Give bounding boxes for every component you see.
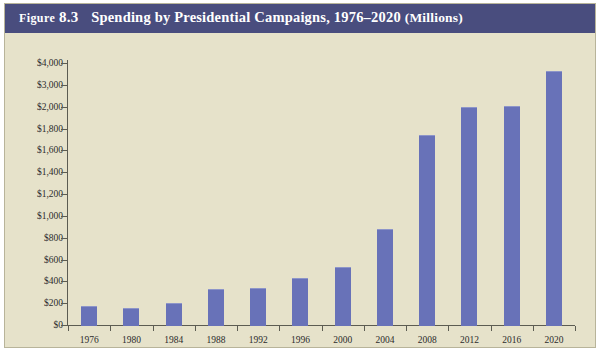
- y-axis-tick-label: $1,800: [5, 124, 67, 134]
- y-axis-tick-mark: [61, 63, 67, 64]
- y-axis-tick-label: $2,000: [5, 102, 67, 112]
- y-axis-tick-mark: [61, 85, 67, 86]
- bar-1980: [123, 308, 139, 326]
- x-axis-tick-label: 1988: [206, 335, 225, 345]
- x-axis-tick-label: 2016: [502, 335, 521, 345]
- x-axis-tick-label: 1984: [164, 335, 183, 345]
- figure-title: Figure 8.3 Spending by Presidential Camp…: [19, 9, 463, 26]
- y-axis-tick-mark: [61, 172, 67, 173]
- y-axis-tick-mark: [61, 194, 67, 195]
- figure-label-prefix: Figure: [19, 11, 55, 25]
- bar-1976: [81, 306, 97, 326]
- y-axis-line: [67, 60, 68, 326]
- bar-1996: [292, 278, 308, 326]
- bar-2008: [419, 135, 435, 326]
- bar-1988: [208, 289, 224, 326]
- y-axis-tick-mark: [61, 260, 67, 261]
- figure-number: 8.3: [59, 9, 78, 25]
- x-axis-tick-mark: [322, 326, 323, 331]
- bar-1984: [166, 303, 182, 326]
- y-axis-tick-label: $200: [5, 298, 67, 308]
- x-axis-tick-label: 1980: [122, 335, 141, 345]
- figure-title-banner: Figure 8.3 Spending by Presidential Camp…: [5, 4, 596, 33]
- figure-title-main: Spending by Presidential Campaigns, 1976…: [91, 9, 401, 25]
- y-axis-tick-label: $0: [5, 320, 67, 330]
- y-axis-tick-mark: [61, 325, 67, 326]
- x-axis-tick-mark: [364, 326, 365, 331]
- bar-2004: [377, 229, 393, 326]
- x-axis-tick-label: 2012: [460, 335, 479, 345]
- x-axis-tick-label: 2004: [375, 335, 394, 345]
- bar-2000: [335, 267, 351, 326]
- x-axis-tick-label: 2000: [333, 335, 352, 345]
- bar-2016: [504, 106, 520, 326]
- x-axis-tick-mark: [448, 326, 449, 331]
- bar-1992: [250, 288, 266, 326]
- x-axis-tick-label: 1992: [249, 335, 268, 345]
- x-axis-tick-label: 1996: [291, 335, 310, 345]
- x-axis-tick-mark: [153, 326, 154, 331]
- y-axis-tick-label: $1,200: [5, 189, 67, 199]
- bar-2012: [461, 107, 477, 326]
- chart-plot-area: $4,000$3,000$2,000$1,800$1,600$1,400$1,2…: [5, 33, 596, 348]
- y-axis-tick-mark: [61, 216, 67, 217]
- figure-title-units: (Millions): [405, 10, 463, 25]
- figure-card: Figure 8.3 Spending by Presidential Camp…: [4, 3, 596, 348]
- x-axis-tick-mark: [406, 326, 407, 331]
- x-axis-tick-mark: [195, 326, 196, 331]
- x-axis-tick-mark: [279, 326, 280, 331]
- x-axis-tick-mark: [68, 326, 69, 331]
- y-axis-tick-label: $800: [5, 233, 67, 243]
- y-axis-tick-mark: [61, 129, 67, 130]
- y-axis-tick-label: $4,000: [5, 58, 67, 68]
- y-axis-tick-label: $1,400: [5, 167, 67, 177]
- x-axis-tick-label: 1976: [80, 335, 99, 345]
- y-axis-labels: $4,000$3,000$2,000$1,800$1,600$1,400$1,2…: [5, 33, 67, 348]
- x-axis-tick-mark: [491, 326, 492, 331]
- bar-2020: [546, 71, 562, 326]
- x-axis-tick-label: 2020: [544, 335, 563, 345]
- x-axis-tick-mark: [237, 326, 238, 331]
- y-axis-tick-mark: [61, 281, 67, 282]
- y-axis-tick-mark: [61, 150, 67, 151]
- y-axis-tick-label: $1,600: [5, 145, 67, 155]
- x-axis-tick-mark: [533, 326, 534, 331]
- x-axis-tick-mark: [575, 326, 576, 331]
- x-axis-tick-mark: [110, 326, 111, 331]
- y-axis-tick-label: $600: [5, 255, 67, 265]
- y-axis-tick-mark: [61, 238, 67, 239]
- x-axis-tick-label: 2008: [418, 335, 437, 345]
- y-axis-tick-label: $1,000: [5, 211, 67, 221]
- y-axis-tick-label: $400: [5, 276, 67, 286]
- y-axis-tick-mark: [61, 107, 67, 108]
- y-axis-tick-label: $3,000: [5, 80, 67, 90]
- y-axis-tick-mark: [61, 303, 67, 304]
